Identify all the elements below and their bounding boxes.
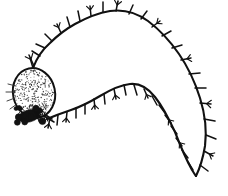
stipple-dot xyxy=(38,80,39,81)
stipple-dot xyxy=(48,81,49,82)
stipple-dot xyxy=(20,93,21,94)
stipple-dot xyxy=(36,88,37,89)
stipple-dot xyxy=(23,84,24,85)
stipple-dot xyxy=(35,80,36,81)
stipple-dot xyxy=(28,82,29,83)
stipple-dot xyxy=(18,90,19,91)
stipple-dot xyxy=(49,100,50,101)
stipple-dot xyxy=(52,94,53,95)
stipple-dot xyxy=(25,82,26,83)
stipple-dot xyxy=(32,106,33,107)
stipple-dot xyxy=(42,94,43,95)
stipple-dot xyxy=(43,91,44,92)
stipple-dot xyxy=(16,89,17,90)
stipple-dot xyxy=(50,105,51,106)
stipple-dot xyxy=(44,79,45,80)
stipple-dot xyxy=(27,108,28,109)
stipple-dot xyxy=(28,97,29,98)
stipple-dot xyxy=(33,103,34,104)
stipple-dot xyxy=(39,104,40,105)
stipple-dot xyxy=(38,101,39,102)
stipple-dot xyxy=(39,105,40,106)
stipple-dot xyxy=(35,86,36,87)
stipple-dot xyxy=(24,94,25,95)
stipple-dot xyxy=(24,89,25,90)
stipple-dot xyxy=(25,99,26,100)
stipple-dot xyxy=(31,85,32,86)
stipple-dot xyxy=(41,78,42,79)
stipple-dot xyxy=(44,99,45,100)
stipple-dot xyxy=(46,98,47,99)
stipple-dot xyxy=(23,107,24,108)
stipple-dot xyxy=(44,83,45,84)
stipple-dot xyxy=(28,89,29,90)
stipple-dot xyxy=(35,70,36,71)
stipple-dot xyxy=(36,72,37,73)
stipple-dot xyxy=(48,92,49,93)
stipple-dot xyxy=(33,80,34,81)
stipple-dot xyxy=(36,101,37,102)
stipple-dot xyxy=(38,96,39,97)
stipple-dot xyxy=(22,86,23,87)
stipple-dot xyxy=(41,84,42,85)
stipple-dot xyxy=(32,86,33,87)
stipple-dot xyxy=(24,92,25,93)
stipple-dot xyxy=(21,100,22,101)
mandible-blob xyxy=(33,105,39,111)
stipple-dot xyxy=(27,98,28,99)
stipple-dot xyxy=(26,91,27,92)
stipple-dot xyxy=(15,90,16,91)
stipple-dot xyxy=(22,103,23,104)
stipple-dot xyxy=(49,96,50,97)
mandible-blob xyxy=(19,115,22,118)
stipple-dot xyxy=(47,91,48,92)
stipple-dot xyxy=(15,97,16,98)
stipple-dot xyxy=(38,75,39,76)
stipple-dot xyxy=(19,94,20,95)
stipple-dot xyxy=(46,95,47,96)
stipple-dot xyxy=(26,81,27,82)
ventral-seta xyxy=(104,94,105,104)
stipple-dot xyxy=(32,101,33,102)
stipple-dot xyxy=(28,80,29,81)
stipple-dot xyxy=(45,76,46,77)
stipple-dot xyxy=(45,105,46,106)
stipple-dot xyxy=(27,100,28,101)
stipple-dot xyxy=(36,91,37,92)
stipple-dot xyxy=(43,109,44,110)
stipple-dot xyxy=(19,80,20,81)
stipple-dot xyxy=(34,84,35,85)
larva-illustration xyxy=(0,0,228,196)
stipple-dot xyxy=(49,93,50,94)
stipple-dot xyxy=(31,89,32,90)
stipple-dot xyxy=(47,93,48,94)
stipple-dot xyxy=(30,77,31,78)
stipple-dot xyxy=(18,92,19,93)
stipple-dot xyxy=(41,107,42,108)
stipple-dot xyxy=(17,96,18,97)
stipple-dot xyxy=(33,98,34,99)
stipple-dot xyxy=(47,105,48,106)
stipple-dot xyxy=(40,97,41,98)
stipple-dot xyxy=(28,74,29,75)
stipple-dot xyxy=(22,96,23,97)
mandible-blob xyxy=(16,117,18,119)
stipple-dot xyxy=(33,96,34,97)
stipple-dot xyxy=(46,105,47,106)
stipple-dot xyxy=(46,107,47,108)
stipple-dot xyxy=(48,107,49,108)
stipple-dot xyxy=(15,88,16,89)
stipple-dot xyxy=(51,96,52,97)
stipple-dot xyxy=(32,96,33,97)
stipple-dot xyxy=(45,90,46,91)
stipple-dot xyxy=(42,82,43,83)
stipple-dot xyxy=(52,91,53,92)
stipple-dot xyxy=(26,77,27,78)
stipple-dot xyxy=(49,86,50,87)
stipple-dot xyxy=(31,70,32,71)
stipple-dot xyxy=(45,80,46,81)
stipple-dot xyxy=(27,78,28,79)
mandible-blob xyxy=(22,119,28,125)
stipple-dot xyxy=(34,91,35,92)
stipple-dot xyxy=(34,70,35,71)
